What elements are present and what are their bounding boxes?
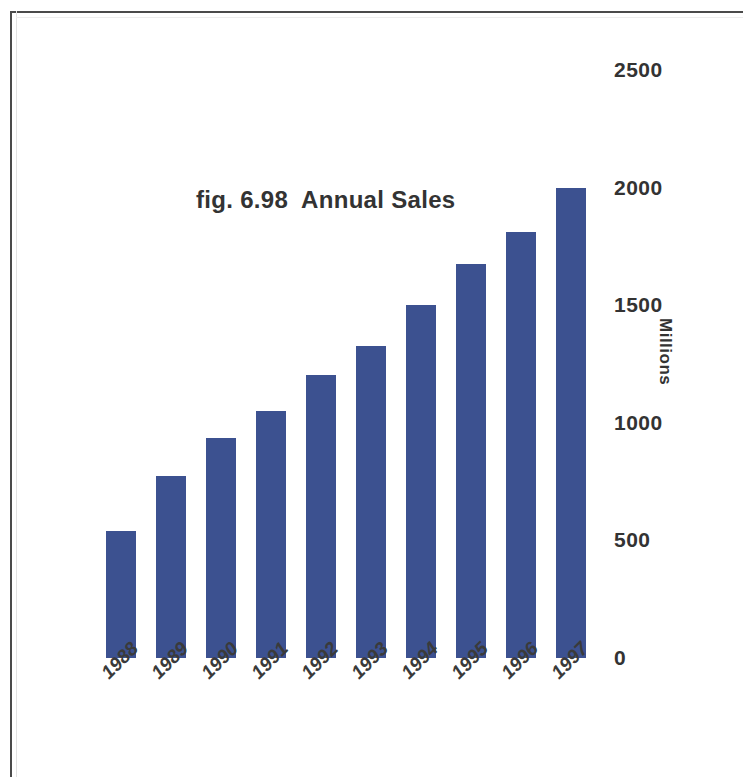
y-axis-tick-label: 2500 [614,58,663,82]
bar [306,375,336,658]
scanned-page: fig. 6.98 Annual Sales 05001000150020002… [0,0,743,777]
bar [156,476,186,658]
plot-area [96,70,596,658]
bar [106,531,136,658]
y-axis-tick-label: 1000 [614,411,663,435]
y-axis-tick-label: 500 [614,528,651,552]
bar [406,305,436,658]
bar [356,346,386,658]
y-axis-tick-label: 0 [614,646,626,670]
y-axis-title: Millions [655,318,675,385]
bar [556,188,586,658]
bar [506,232,536,658]
y-axis-tick-label: 2000 [614,176,663,200]
y-axis-tick-label: 1500 [614,293,663,317]
bar [456,264,486,658]
bar [256,411,286,658]
bar [206,438,236,658]
bar-chart: fig. 6.98 Annual Sales 05001000150020002… [0,0,743,777]
